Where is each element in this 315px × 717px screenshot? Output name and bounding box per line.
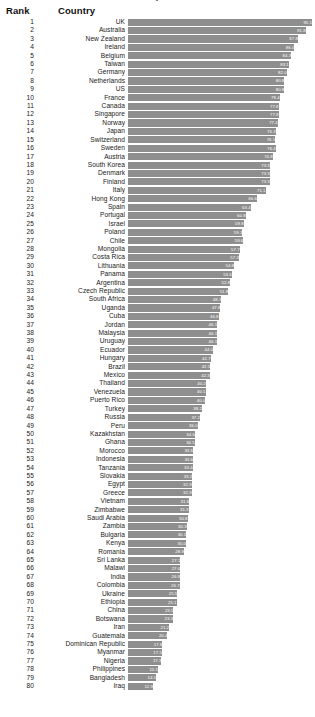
row-country-label: Ukraine — [36, 590, 125, 598]
bar-track: 42.5 — [128, 363, 312, 370]
bar-track: 30.0 — [128, 540, 312, 547]
row-country-label: Uruguay — [36, 337, 125, 345]
bar-value-label: 17.5 — [128, 649, 163, 656]
bar-track: 27.1 — [128, 557, 312, 564]
row-rank: 38 — [0, 329, 34, 337]
row-rank: 47 — [0, 405, 34, 413]
bar-value-label: 91.8 — [128, 27, 307, 34]
row-rank: 78 — [0, 665, 34, 673]
bar-track: 77.8 — [128, 103, 312, 110]
bar-value-label: 63.4 — [128, 204, 252, 211]
row-rank: 34 — [0, 295, 34, 303]
row-rank: 14 — [0, 127, 34, 135]
bar-track: 95.1 — [128, 19, 312, 26]
row-rank: 68 — [0, 581, 34, 589]
bar-track: 57.3 — [128, 254, 312, 261]
table-row: 51Ghana34.5 — [0, 438, 315, 446]
table-row: 80Iraq12.9 — [0, 682, 315, 690]
bar-value-label: 31.6 — [128, 498, 191, 505]
table-row: 35Uganda47.8 — [0, 304, 315, 312]
row-rank: 70 — [0, 598, 34, 606]
bar-track: 15.5 — [128, 666, 312, 673]
table-row: 40Ecuador44.0 — [0, 346, 315, 354]
table-row: 52Morocco33.6 — [0, 447, 315, 455]
bar-track: 17.5 — [128, 649, 312, 656]
table-row: 69Ukraine25.5 — [0, 590, 315, 598]
bar-value-label: 30.3 — [128, 523, 188, 530]
bar-value-label: 40.1 — [128, 388, 207, 395]
bar-value-label: 23.3 — [128, 615, 175, 622]
row-country-label: Germany — [36, 68, 125, 76]
row-country-label: Argentina — [36, 279, 125, 287]
bar-track: 34.5 — [128, 439, 312, 446]
bar-track: 80.8 — [128, 86, 312, 93]
bar-track: 78.4 — [128, 94, 312, 101]
bar-track: 76.4 — [128, 145, 312, 152]
bar-track: 51.8 — [128, 288, 312, 295]
table-row: 20Finland73.3 — [0, 178, 315, 186]
bar-track: 36.0 — [128, 422, 312, 429]
bar-track: 37.2 — [128, 414, 312, 421]
bar-track: 44.0 — [128, 346, 312, 353]
bar-track: 87.8 — [128, 35, 312, 42]
table-row: 66Malawi27.0 — [0, 564, 315, 572]
table-row: 44Thailand40.2 — [0, 379, 315, 387]
row-country-label: Kazakhstan — [36, 430, 125, 438]
row-country-label: Ethiopia — [36, 598, 125, 606]
table-row: 79Bangladesh14.5 — [0, 674, 315, 682]
bar-value-label: 17.8 — [128, 641, 164, 648]
row-rank: 1 — [0, 18, 34, 26]
bar-track: 57.7 — [128, 246, 312, 253]
row-country-label: Thailand — [36, 379, 125, 387]
bar-value-label: 21.2 — [128, 624, 171, 631]
bar-value-label: 54.8 — [128, 262, 236, 269]
bar-value-label: 47.8 — [128, 304, 222, 311]
bar-track: 46.1 — [128, 330, 312, 337]
row-rank: 4 — [0, 43, 34, 51]
bar-value-label: 33.4 — [128, 464, 194, 471]
row-country-label: Iran — [36, 623, 125, 631]
table-row: 36Cuba46.8 — [0, 312, 315, 320]
table-row: 39Uruguay46.1 — [0, 337, 315, 345]
table-row: 73Iran21.2 — [0, 623, 315, 631]
bar-value-label: 33.2 — [128, 473, 194, 480]
row-country-label: Mexico — [36, 371, 125, 379]
bar-track: 84.3 — [128, 52, 312, 59]
bar-value-label: 78.4 — [128, 94, 281, 101]
bar-track: 33.4 — [128, 464, 312, 471]
bar-track: 42.3 — [128, 372, 312, 379]
table-row: 43Mexico42.3 — [0, 371, 315, 379]
bar-value-label: 27.1 — [128, 557, 182, 564]
row-rank: 80 — [0, 682, 34, 690]
bar-track: 38.2 — [128, 405, 312, 412]
row-country-label: Indonesia — [36, 455, 125, 463]
bar-track: 40.2 — [128, 380, 312, 387]
row-country-label: Poland — [36, 228, 125, 236]
row-country-label: China — [36, 606, 125, 614]
bar-track: 23.5 — [128, 607, 312, 614]
row-country-label: Puerto Rico — [36, 396, 125, 404]
row-rank: 76 — [0, 648, 34, 656]
bar-track: 46.1 — [128, 338, 312, 345]
row-rank: 62 — [0, 531, 34, 539]
bar-value-label: 84.3 — [128, 52, 293, 59]
bar-track: 25.1 — [128, 599, 312, 606]
bar-track: 33.2 — [128, 473, 312, 480]
row-rank: 52 — [0, 447, 34, 455]
row-rank: 37 — [0, 321, 34, 329]
bar-track: 59.1 — [128, 229, 312, 236]
bar-value-label: 59.1 — [128, 229, 244, 236]
row-rank: 5 — [0, 52, 34, 60]
bar-track: 32.9 — [128, 481, 312, 488]
bar-track: 30.3 — [128, 523, 312, 530]
table-row: 56Egypt32.9 — [0, 480, 315, 488]
table-row: 25Israel59.8 — [0, 220, 315, 228]
bar-value-label: 27.0 — [128, 565, 182, 572]
row-country-label: Tanzania — [36, 464, 125, 472]
bar-value-label: 20.4 — [128, 632, 169, 639]
bar-track: 66.6 — [128, 195, 312, 202]
bar-track: 25.5 — [128, 590, 312, 597]
bar-value-label: 33.6 — [128, 447, 195, 454]
row-rank: 30 — [0, 262, 34, 270]
bar-value-label: 71.1 — [128, 187, 267, 194]
